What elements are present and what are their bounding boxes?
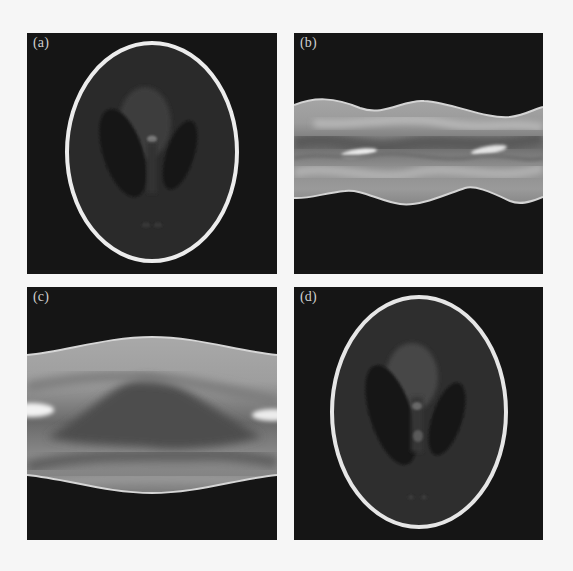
panel-label-d: (d) [300, 289, 317, 305]
small-spot [421, 495, 427, 499]
panel-d-reconstruction: (d) [294, 287, 543, 540]
panel-b-sinogram: (b) [294, 33, 543, 274]
phantom-image-d [294, 287, 543, 540]
panel-c-sinogram: (c) [27, 287, 277, 540]
stem [147, 143, 157, 193]
small-spot [154, 223, 162, 228]
sinogram-image-b [294, 33, 543, 274]
small-spot [408, 495, 414, 499]
panel-label-c: (c) [33, 289, 49, 305]
panel-label-b: (b) [300, 35, 317, 51]
panel-label-a: (a) [33, 35, 49, 51]
small-spot [142, 223, 150, 228]
bright-spot [412, 402, 422, 410]
bright-spot [413, 430, 423, 442]
panel-a-phantom: (a) [27, 33, 277, 274]
sinogram-image-c [27, 287, 277, 540]
phantom-image-a [27, 33, 277, 274]
bright-spot [147, 136, 157, 143]
